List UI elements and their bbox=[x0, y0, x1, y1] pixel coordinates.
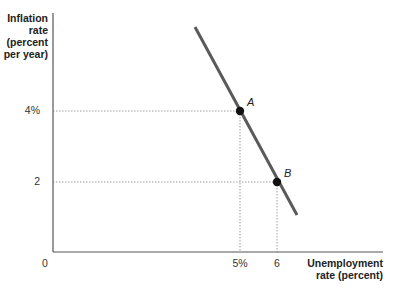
point-b-marker bbox=[273, 178, 281, 186]
point-a-label: A bbox=[247, 96, 254, 108]
point-b-label: B bbox=[284, 167, 291, 179]
phillips-curve-chart bbox=[0, 0, 394, 288]
phillips-curve-line bbox=[195, 27, 297, 215]
x-axis-label: Unemployment rate (percent) bbox=[300, 257, 383, 281]
y-axis-label-line: Inflation bbox=[0, 12, 48, 24]
point-a-marker bbox=[236, 107, 244, 115]
x-axis-label-line: Unemployment bbox=[300, 257, 383, 269]
y-tick-4: 4% bbox=[0, 104, 40, 116]
x-tick-5: 5% bbox=[225, 257, 255, 269]
x-tick-6: 6 bbox=[262, 257, 292, 269]
y-axis-label: Inflation rate (percent per year) bbox=[0, 12, 48, 60]
y-axis-label-line: rate bbox=[0, 24, 48, 36]
x-axis-label-line: rate (percent) bbox=[300, 269, 383, 281]
y-axis-label-line: (percent bbox=[0, 36, 48, 48]
y-tick-2: 2 bbox=[0, 175, 40, 187]
origin-label: 0 bbox=[42, 257, 48, 269]
y-axis-label-line: per year) bbox=[0, 48, 48, 60]
